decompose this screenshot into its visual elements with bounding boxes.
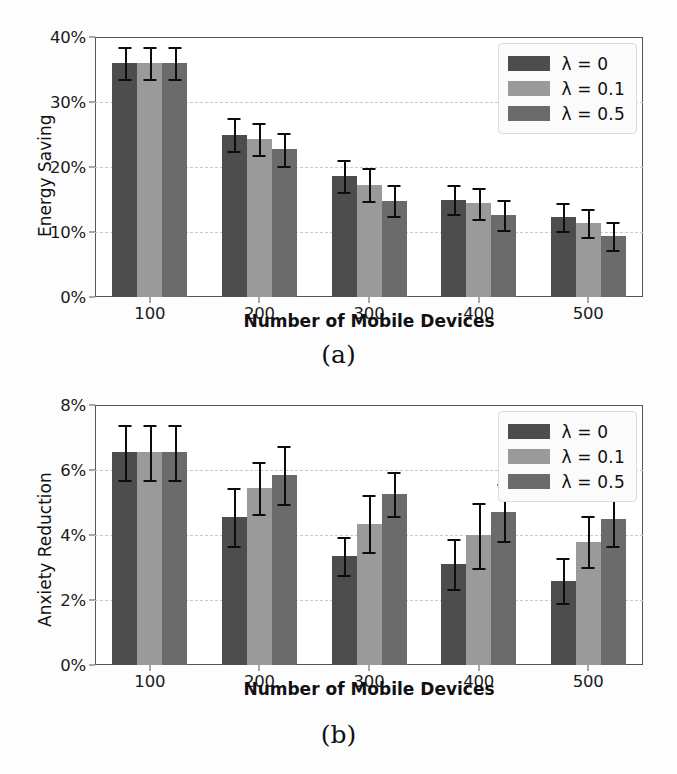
legend-item[interactable]: λ = 0.5 xyxy=(508,469,625,494)
error-bar-cap xyxy=(472,219,485,221)
error-bar-cap xyxy=(143,425,156,427)
legend-label: λ = 0.5 xyxy=(561,104,625,124)
error-bar-cap xyxy=(388,185,401,187)
error-bar xyxy=(588,516,590,567)
error-bar xyxy=(234,118,236,152)
error-bar-cap xyxy=(363,168,376,170)
legend-item[interactable]: λ = 0.1 xyxy=(508,76,625,101)
error-bar-cap xyxy=(143,47,156,49)
error-bar xyxy=(344,537,346,575)
x-axis-tick-mark xyxy=(149,297,150,303)
error-bar xyxy=(150,47,152,80)
legend-item[interactable]: λ = 0 xyxy=(508,51,625,76)
error-bar-cap xyxy=(278,166,291,168)
bar xyxy=(112,63,137,297)
x-axis-tick-label: 100 xyxy=(134,672,165,691)
error-bar-cap xyxy=(228,488,241,490)
x-axis-tick-mark xyxy=(478,665,479,671)
error-bar-cap xyxy=(582,209,595,211)
error-bar xyxy=(344,160,346,193)
error-bar-cap xyxy=(228,118,241,120)
y-axis-tick-mark xyxy=(89,232,95,233)
error-bar xyxy=(479,188,481,219)
x-axis-tick-mark xyxy=(259,297,260,303)
error-bar-cap xyxy=(253,155,266,157)
error-bar-cap xyxy=(168,480,181,482)
y-axis-tick-mark xyxy=(89,470,95,471)
y-axis-tick-mark xyxy=(89,297,95,298)
error-bar xyxy=(175,47,177,80)
error-bar xyxy=(394,185,396,216)
error-bar-cap xyxy=(557,203,570,205)
panel-b: 0%2%4%6%8% 100200300400500 Number of Mob… xyxy=(0,390,677,774)
panel-caption-a: (a) xyxy=(321,340,355,369)
error-bar-cap xyxy=(472,568,485,570)
error-bar-cap xyxy=(388,216,401,218)
x-axis-tick-label: 500 xyxy=(573,304,604,323)
error-bar-cap xyxy=(497,200,510,202)
error-bar-cap xyxy=(472,503,485,505)
error-bar-cap xyxy=(497,230,510,232)
figure-container: 0%10%20%30%40% 100200300400500 Number of… xyxy=(0,0,677,774)
error-bar-cap xyxy=(143,79,156,81)
error-bar-cap xyxy=(582,516,595,518)
error-bar-cap xyxy=(447,539,460,541)
legend-swatch xyxy=(508,106,550,121)
error-bar-cap xyxy=(253,514,266,516)
error-bar-cap xyxy=(557,231,570,233)
error-bar-cap xyxy=(363,495,376,497)
x-axis-tick-mark xyxy=(369,665,370,671)
y-axis-tick-mark xyxy=(89,535,95,536)
error-bar-cap xyxy=(118,480,131,482)
panel-a: 0%10%20%30%40% 100200300400500 Number of… xyxy=(0,0,677,390)
error-bar-cap xyxy=(338,537,351,539)
error-bar-cap xyxy=(607,222,620,224)
error-bar xyxy=(150,425,152,480)
legend-item[interactable]: λ = 0 xyxy=(508,419,625,444)
error-bar-cap xyxy=(363,201,376,203)
error-bar-cap xyxy=(168,79,181,81)
legend-item[interactable]: λ = 0.5 xyxy=(508,101,625,126)
y-axis-tick-mark xyxy=(89,405,95,406)
legend-a: λ = 0λ = 0.1λ = 0.5 xyxy=(498,43,637,134)
error-bar-cap xyxy=(118,47,131,49)
error-bar xyxy=(563,558,565,602)
legend-swatch xyxy=(508,81,550,96)
error-bar xyxy=(588,209,590,236)
x-axis-tick-label: 100 xyxy=(134,304,165,323)
y-axis-tick-mark xyxy=(89,665,95,666)
error-bar xyxy=(259,462,261,514)
bar xyxy=(382,494,407,665)
error-bar xyxy=(369,168,371,201)
error-bar-cap xyxy=(338,160,351,162)
error-bar-cap xyxy=(582,567,595,569)
x-axis-tick-mark xyxy=(149,665,150,671)
y-axis-label-b: Anxiety Reduction xyxy=(35,472,55,627)
error-bar-cap xyxy=(447,185,460,187)
x-axis-tick-mark xyxy=(478,297,479,303)
legend-swatch xyxy=(508,424,550,439)
error-bar-cap xyxy=(118,79,131,81)
legend-label: λ = 0 xyxy=(561,422,608,442)
error-bar xyxy=(259,123,261,154)
error-bar-cap xyxy=(228,151,241,153)
error-bar-cap xyxy=(253,123,266,125)
error-bar-cap xyxy=(607,546,620,548)
error-bar-cap xyxy=(582,237,595,239)
error-bar xyxy=(125,47,127,80)
legend-item[interactable]: λ = 0.1 xyxy=(508,444,625,469)
error-bar-cap xyxy=(557,603,570,605)
error-bar xyxy=(369,495,371,552)
error-bar-cap xyxy=(143,480,156,482)
error-bar-cap xyxy=(168,47,181,49)
error-bar xyxy=(234,488,236,547)
legend-label: λ = 0.5 xyxy=(561,472,625,492)
error-bar-cap xyxy=(447,589,460,591)
bar xyxy=(112,452,137,665)
error-bar-cap xyxy=(497,541,510,543)
y-axis-tick-mark xyxy=(89,167,95,168)
legend-b: λ = 0λ = 0.1λ = 0.5 xyxy=(498,411,637,502)
bar xyxy=(137,63,162,297)
bar xyxy=(137,452,162,665)
error-bar-cap xyxy=(388,516,401,518)
